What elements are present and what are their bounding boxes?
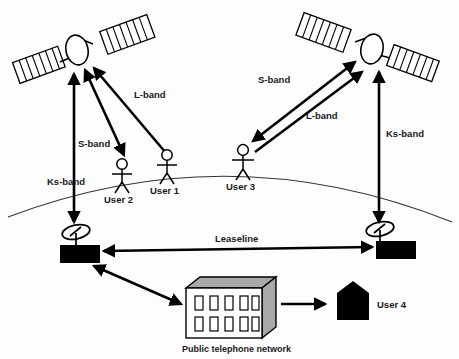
label-ks-band-left: Ks-band	[47, 176, 85, 187]
label-user-4: User 4	[377, 299, 407, 310]
label-l-band-right: L-band	[306, 110, 338, 121]
link-leaseline	[104, 247, 372, 251]
ground-station-right	[365, 219, 416, 259]
user-2-figure	[112, 159, 132, 193]
label-l-band-left: L-band	[134, 89, 166, 100]
user-3-figure	[232, 145, 254, 180]
ground-station-left-body	[60, 245, 100, 263]
label-public-telephone-network: Public telephone network	[182, 344, 292, 354]
link-station-to-pstn	[94, 266, 181, 304]
label-user-3: User 3	[226, 181, 255, 192]
label-user-2: User 2	[104, 194, 133, 205]
user-4-house	[337, 281, 369, 320]
satellite-left	[13, 15, 155, 84]
label-s-band-left: S-band	[78, 138, 110, 149]
label-ks-band-right: Ks-band	[386, 128, 424, 139]
label-user-1: User 1	[150, 185, 180, 196]
ground-station-right-body	[376, 241, 416, 259]
label-s-band-right: S-band	[258, 74, 290, 85]
satellite-network-diagram: Ks-band S-band L-band S-band L-band Ks-b…	[0, 0, 459, 359]
ground-station-left	[60, 222, 100, 263]
diagram-canvas: Ks-band S-band L-band S-band L-band Ks-b…	[0, 0, 459, 359]
satellite-right	[296, 13, 439, 82]
label-leaseline: Leaseline	[215, 233, 258, 244]
public-telephone-network-node	[186, 277, 276, 338]
